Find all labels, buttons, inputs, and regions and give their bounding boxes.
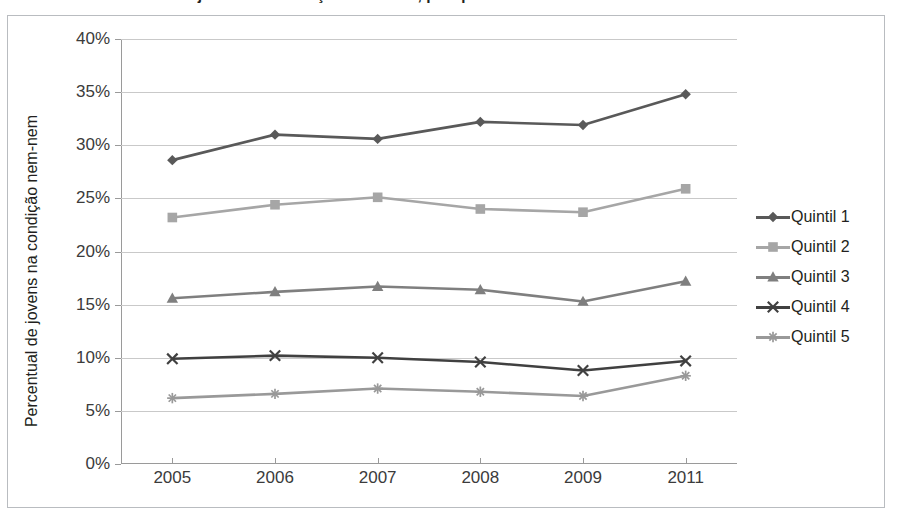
y-axis-tick-label: 20% <box>76 242 110 262</box>
legend-item-quintil-5[interactable]: Quintil 5 <box>756 322 881 352</box>
x-axis-tick-label: 2009 <box>564 468 602 488</box>
y-axis-tick-label: 25% <box>76 188 110 208</box>
legend-item-quintil-2[interactable]: Quintil 2 <box>756 232 881 262</box>
series-line <box>172 94 685 160</box>
diamond-marker <box>372 134 382 144</box>
diamond-marker <box>167 155 177 165</box>
legend-item-quintil-1[interactable]: Quintil 1 <box>756 202 881 232</box>
y-axis-title: Percentual de jovens na condição nem-nem <box>23 115 41 427</box>
diamond-marker <box>680 89 690 99</box>
x-axis-tick-label: 2006 <box>256 468 294 488</box>
star-marker <box>756 329 790 345</box>
plot-area: 0%5%10%15%20%25%30%35%40% 20052006200720… <box>121 39 737 464</box>
y-axis-tick-label: 10% <box>76 348 110 368</box>
series-quintil-3 <box>167 275 692 305</box>
diamond-marker <box>475 117 485 127</box>
star-marker <box>680 371 690 381</box>
series-quintil-4 <box>167 350 691 375</box>
square-marker <box>578 207 588 217</box>
y-axis-tick <box>115 464 121 465</box>
y-axis-tick-label: 0% <box>85 454 110 474</box>
series-quintil-2 <box>168 184 691 222</box>
chart-title-clipped: Gráfico – Percentual de jovens na condiç… <box>0 0 897 14</box>
star-marker <box>578 391 588 401</box>
square-marker <box>681 184 691 194</box>
y-axis-tick-label: 40% <box>76 29 110 49</box>
series-line <box>172 376 685 398</box>
series-line <box>172 281 685 301</box>
diamond-marker <box>578 120 588 130</box>
square-marker <box>168 213 178 223</box>
star-marker <box>768 332 778 342</box>
triangle-marker <box>767 271 778 281</box>
series-quintil-1 <box>167 89 691 165</box>
star-marker <box>167 393 177 403</box>
triangle-marker <box>756 269 790 285</box>
series-layer <box>121 39 737 464</box>
legend-label: Quintil 3 <box>791 268 850 286</box>
star-marker <box>372 383 382 393</box>
star-marker <box>270 389 280 399</box>
y-axis-tick-label: 30% <box>76 135 110 155</box>
x-marker <box>756 299 790 315</box>
diamond-marker <box>756 209 790 225</box>
legend-label: Quintil 2 <box>791 238 850 256</box>
square-marker <box>476 204 486 214</box>
triangle-marker <box>680 275 691 285</box>
legend-item-quintil-4[interactable]: Quintil 4 <box>756 292 881 322</box>
diamond-marker <box>768 212 778 222</box>
legend-label: Quintil 1 <box>791 208 850 226</box>
x-axis-tick-label: 2008 <box>461 468 499 488</box>
chart-title: Gráfico – Percentual de jovens na condiç… <box>18 0 573 4</box>
square-marker <box>270 200 280 210</box>
series-line <box>172 356 685 371</box>
chart-screenshot: Gráfico – Percentual de jovens na condiç… <box>0 0 897 525</box>
y-axis-tick-label: 15% <box>76 295 110 315</box>
chart-legend: Quintil 1Quintil 2Quintil 3Quintil 4Quin… <box>756 202 881 352</box>
square-marker <box>373 193 383 203</box>
x-marker <box>768 302 778 312</box>
y-axis-tick-label: 35% <box>76 82 110 102</box>
x-axis-tick-label: 2011 <box>667 468 704 488</box>
legend-item-quintil-3[interactable]: Quintil 3 <box>756 262 881 292</box>
square-marker <box>756 239 790 255</box>
y-axis-tick-label: 5% <box>85 401 110 421</box>
legend-label: Quintil 4 <box>791 298 850 316</box>
diamond-marker <box>270 129 280 139</box>
series-quintil-5 <box>167 371 691 404</box>
x-axis-tick-label: 2007 <box>359 468 397 488</box>
chart-frame: Percentual de jovens na condição nem-nem… <box>7 15 885 508</box>
star-marker <box>475 387 485 397</box>
x-axis-tick-label: 2005 <box>153 468 191 488</box>
series-line <box>172 189 685 218</box>
legend-label: Quintil 5 <box>791 328 850 346</box>
square-marker <box>768 242 778 252</box>
